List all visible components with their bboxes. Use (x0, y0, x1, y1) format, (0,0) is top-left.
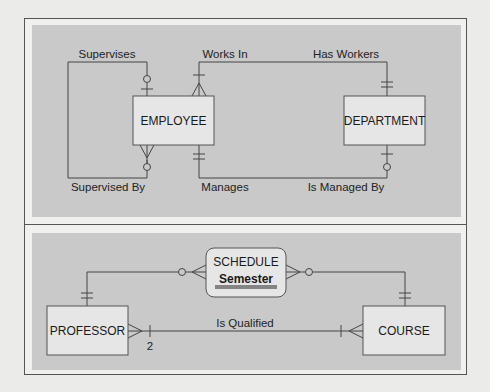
is-managed-by-label: Is Managed By (308, 181, 385, 193)
optional-circle-icon (144, 164, 151, 171)
cardinality-label: 2 (147, 340, 153, 352)
has-workers-label: Has Workers (313, 48, 379, 60)
is-qualified-label: Is Qualified (216, 317, 274, 329)
optional-circle-icon (306, 269, 313, 276)
er-diagram: EMPLOYEE DEPARTMENT SCHEDULE Semester PR… (0, 0, 490, 392)
course-label: COURSE (378, 324, 429, 338)
works-in-label: Works In (202, 48, 247, 60)
semester-attribute-label: Semester (219, 272, 273, 286)
manages-relationship-line (199, 145, 387, 178)
optional-circle-icon (384, 164, 391, 171)
professor-label: PROFESSOR (50, 324, 126, 338)
optional-circle-icon (144, 76, 151, 83)
department-label: DEPARTMENT (344, 114, 426, 128)
optional-circle-icon (179, 269, 186, 276)
works-in-relationship-line (199, 62, 387, 96)
supervises-label: Supervises (79, 48, 136, 60)
professor-schedule-line (87, 272, 178, 306)
employee-label: EMPLOYEE (140, 114, 206, 128)
supervised-by-label: Supervised By (71, 181, 145, 193)
schedule-course-line (313, 272, 405, 306)
manages-label: Manages (201, 181, 249, 193)
schedule-label: SCHEDULE (213, 255, 278, 269)
